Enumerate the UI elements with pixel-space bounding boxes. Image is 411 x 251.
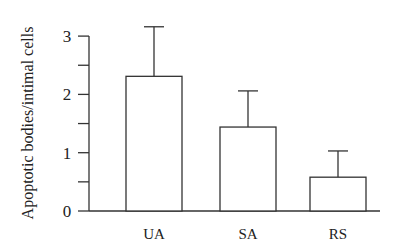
- y-tick-label: 1: [63, 144, 72, 163]
- y-tick-label: 3: [63, 27, 72, 46]
- bar-sa: [220, 127, 276, 211]
- bar-chart: 0123UASARSApoptotic bodies/intimal cells: [0, 0, 411, 251]
- chart: 0123UASARSApoptotic bodies/intimal cells: [0, 0, 411, 251]
- bar-rs: [310, 177, 366, 211]
- y-axis-label: Apoptotic bodies/intimal cells: [19, 27, 37, 220]
- x-tick-label: SA: [238, 226, 257, 242]
- y-tick-label: 2: [63, 85, 72, 104]
- bar-ua: [126, 76, 182, 211]
- x-tick-label: RS: [329, 226, 347, 242]
- x-tick-label: UA: [143, 226, 165, 242]
- y-tick-label: 0: [63, 202, 72, 221]
